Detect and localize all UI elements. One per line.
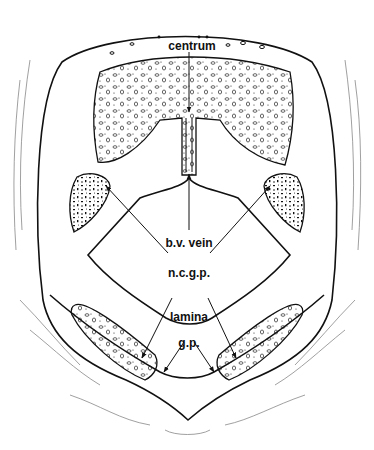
right-lamina	[217, 304, 303, 380]
vertebra-diagram	[0, 0, 374, 450]
label-gp: g.p.	[178, 336, 199, 350]
label-bv-vein: b.v. vein	[165, 236, 212, 250]
label-centrum: centrum	[168, 39, 215, 53]
left-upper-inclusion	[70, 174, 110, 232]
centrum-body	[94, 57, 294, 175]
label-lamina: lamina	[170, 310, 208, 324]
left-lamina	[71, 304, 157, 380]
right-upper-inclusion	[264, 174, 304, 232]
label-ncgp: n.c.g.p.	[168, 266, 210, 280]
